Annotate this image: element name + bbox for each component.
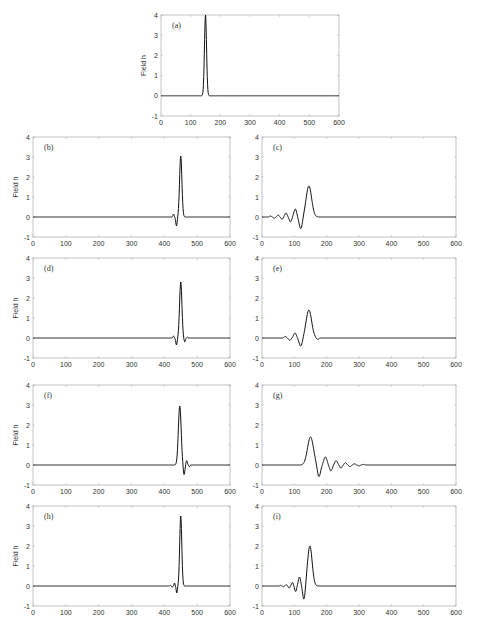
y-tick-label: -1 <box>24 234 30 241</box>
x-tick-label: 0 <box>260 609 264 616</box>
y-axis-label: Field h <box>12 297 19 318</box>
y-tick-label: 3 <box>26 402 30 409</box>
y-tick-label: 4 <box>26 382 30 389</box>
x-tick-label: 600 <box>450 609 462 616</box>
x-tick-label: 600 <box>224 240 236 247</box>
x-tick-label: 100 <box>60 609 72 616</box>
y-tick-label: 2 <box>255 295 259 302</box>
x-tick-label: 400 <box>158 488 170 495</box>
x-tick-label: 400 <box>274 119 286 126</box>
y-tick-label: 3 <box>26 154 30 161</box>
x-tick-label: 200 <box>321 488 333 495</box>
y-tick-label: 4 <box>255 134 259 141</box>
y-axis-label: Field h <box>12 424 19 445</box>
panel-label: (e) <box>273 264 282 273</box>
y-tick-label: 2 <box>26 295 30 302</box>
plot-frame <box>262 506 456 606</box>
chart-panel-i: 0100200300400500600-101234(i) <box>253 503 462 617</box>
y-tick-label: 4 <box>255 382 259 389</box>
y-tick-label: -1 <box>253 234 259 241</box>
chart-panel-g: 0100200300400500600-101234(g) <box>253 382 462 496</box>
x-tick-label: 0 <box>31 488 35 495</box>
x-tick-label: 100 <box>288 488 300 495</box>
x-tick-label: 400 <box>385 240 397 247</box>
y-tick-label: 0 <box>255 462 259 469</box>
y-tick-label: 4 <box>154 12 158 19</box>
y-axis-label: Field h <box>140 55 147 76</box>
plot-frame <box>33 385 230 485</box>
field-curve <box>33 156 230 226</box>
field-curve <box>33 282 230 345</box>
x-tick-label: 300 <box>353 488 365 495</box>
y-tick-label: 0 <box>255 214 259 221</box>
y-tick-label: 1 <box>26 194 30 201</box>
x-tick-label: 100 <box>288 240 300 247</box>
chart-panel-f: 0100200300400500600-101234Field h(f) <box>12 382 236 496</box>
plot-frame <box>262 385 456 485</box>
field-curve <box>262 310 456 346</box>
x-tick-label: 100 <box>288 609 300 616</box>
y-tick-label: -1 <box>253 355 259 362</box>
plot-frame <box>33 506 230 606</box>
plot-frame <box>262 258 456 358</box>
chart-panel-e: 0100200300400500600-101234(e) <box>253 255 462 369</box>
panel-label: (c) <box>273 143 282 152</box>
y-tick-label: 4 <box>255 503 259 510</box>
y-tick-label: 1 <box>255 442 259 449</box>
x-tick-label: 100 <box>60 488 72 495</box>
x-tick-label: 100 <box>60 361 72 368</box>
figure-grid: 0100200300400500600-101234Field h(a)0100… <box>0 0 479 633</box>
y-tick-label: 3 <box>255 523 259 530</box>
x-tick-label: 300 <box>126 361 138 368</box>
x-tick-label: 200 <box>93 240 105 247</box>
x-tick-label: 0 <box>31 240 35 247</box>
x-tick-label: 500 <box>191 609 203 616</box>
x-tick-label: 500 <box>418 361 430 368</box>
x-tick-label: 300 <box>244 119 256 126</box>
y-tick-label: -1 <box>24 603 30 610</box>
x-tick-label: 0 <box>260 240 264 247</box>
x-tick-label: 600 <box>450 240 462 247</box>
y-tick-label: 3 <box>255 402 259 409</box>
x-tick-label: 500 <box>303 119 315 126</box>
x-tick-label: 200 <box>93 609 105 616</box>
x-tick-label: 400 <box>385 361 397 368</box>
x-tick-label: 0 <box>260 488 264 495</box>
y-tick-label: 2 <box>255 543 259 550</box>
x-tick-label: 300 <box>126 609 138 616</box>
y-tick-label: 4 <box>26 134 30 141</box>
x-tick-label: 200 <box>93 488 105 495</box>
x-tick-label: 200 <box>321 240 333 247</box>
x-tick-label: 500 <box>191 488 203 495</box>
x-tick-label: 500 <box>191 240 203 247</box>
x-tick-label: 600 <box>333 119 345 126</box>
y-tick-label: 3 <box>255 275 259 282</box>
x-tick-label: 600 <box>224 609 236 616</box>
x-tick-label: 500 <box>191 361 203 368</box>
y-tick-label: 0 <box>255 583 259 590</box>
y-tick-label: 4 <box>26 503 30 510</box>
panel-label: (g) <box>273 391 283 400</box>
panel-label: (i) <box>273 512 281 521</box>
y-tick-label: 0 <box>154 92 158 99</box>
y-tick-label: -1 <box>24 482 30 489</box>
x-tick-label: 400 <box>158 361 170 368</box>
x-tick-label: 500 <box>418 609 430 616</box>
chart-panel-a: 0100200300400500600-101234Field h(a) <box>140 12 345 127</box>
panel-label: (a) <box>172 21 181 30</box>
x-tick-label: 400 <box>158 240 170 247</box>
y-tick-label: 0 <box>26 214 30 221</box>
plot-frame <box>33 137 230 237</box>
x-tick-label: 0 <box>31 361 35 368</box>
plot-frame <box>33 258 230 358</box>
x-tick-label: 600 <box>224 488 236 495</box>
panel-label: (f) <box>44 391 52 400</box>
y-tick-label: 1 <box>26 442 30 449</box>
x-tick-label: 200 <box>321 361 333 368</box>
chart-panel-d: 0100200300400500600-101234Field h(d) <box>12 255 236 369</box>
x-tick-label: 200 <box>321 609 333 616</box>
y-tick-label: 0 <box>26 462 30 469</box>
y-tick-label: 1 <box>26 563 30 570</box>
field-curve <box>262 186 456 229</box>
y-tick-label: 3 <box>26 275 30 282</box>
